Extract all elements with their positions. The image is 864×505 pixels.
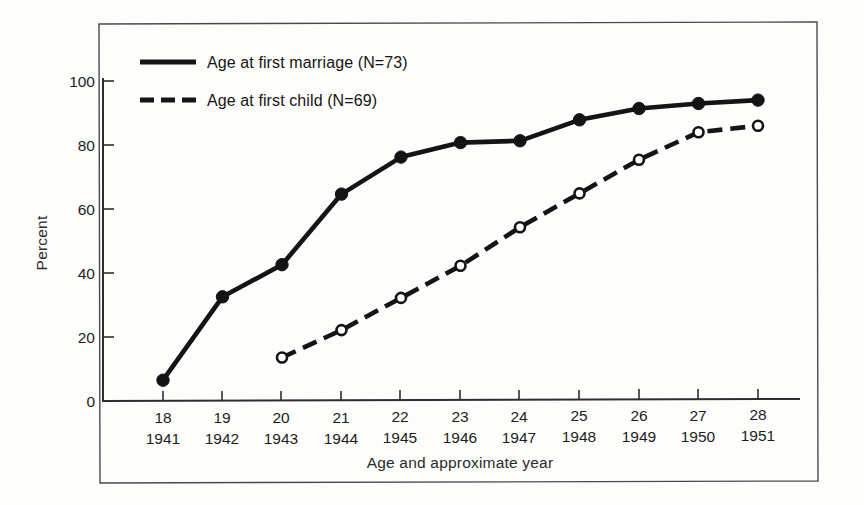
legend-entry-child: Age at first child (N=69) bbox=[140, 92, 377, 109]
data-point bbox=[454, 136, 466, 148]
x-tick-labels-year: 1941 1942 1943 1944 1945 1946 1947 1948 … bbox=[146, 427, 775, 447]
data-point bbox=[753, 121, 763, 131]
x-tick-label-year-1951: 1951 bbox=[741, 427, 775, 444]
x-tick-label-age-27: 27 bbox=[689, 407, 706, 424]
x-tick-label-age-19: 19 bbox=[213, 409, 230, 426]
legend-label-child: Age at first child (N=69) bbox=[207, 92, 377, 109]
series-age-at-first-child bbox=[277, 121, 763, 363]
x-axis-title: Age and approximate year bbox=[367, 454, 554, 471]
x-tick-label-age-18: 18 bbox=[154, 409, 171, 426]
x-tick-label-age-28: 28 bbox=[749, 406, 766, 423]
x-tick-label-year-1941: 1941 bbox=[146, 430, 180, 447]
x-tick-label-year-1945: 1945 bbox=[383, 429, 417, 446]
line-chart-canvas: 100 80 60 40 20 0 Percent 18 19 20 21 22… bbox=[0, 0, 864, 505]
x-tick-label-age-21: 21 bbox=[332, 409, 349, 426]
series-age-at-first-marriage bbox=[157, 94, 764, 387]
data-point bbox=[395, 151, 407, 163]
data-point bbox=[752, 94, 764, 106]
x-tick-label-age-25: 25 bbox=[570, 407, 587, 424]
x-tick-labels-age: 18 19 20 21 22 23 24 25 26 27 28 bbox=[154, 406, 766, 426]
x-tick-label-age-26: 26 bbox=[630, 407, 647, 424]
y-tick-label-60: 60 bbox=[78, 201, 96, 218]
y-axis-ticks bbox=[103, 81, 114, 337]
chart-figure: 100 80 60 40 20 0 Percent 18 19 20 21 22… bbox=[0, 0, 864, 505]
series-markers-marriage bbox=[157, 94, 764, 387]
y-tick-label-20: 20 bbox=[78, 329, 96, 346]
x-tick-label-year-1942: 1942 bbox=[205, 430, 239, 447]
data-point bbox=[634, 155, 644, 165]
data-point bbox=[216, 291, 228, 303]
data-point bbox=[694, 127, 704, 137]
data-point bbox=[335, 188, 347, 200]
data-point bbox=[277, 353, 287, 363]
data-point bbox=[157, 374, 169, 386]
data-point bbox=[396, 293, 406, 303]
plot-axes bbox=[103, 78, 800, 402]
data-point bbox=[456, 261, 466, 271]
data-point bbox=[575, 188, 585, 198]
x-tick-label-year-1943: 1943 bbox=[264, 430, 298, 447]
y-axis-title: Percent bbox=[33, 215, 50, 270]
data-point bbox=[514, 135, 526, 147]
x-tick-label-age-24: 24 bbox=[510, 408, 528, 425]
y-tick-labels: 100 80 60 40 20 0 bbox=[69, 73, 95, 410]
x-tick-label-year-1948: 1948 bbox=[562, 428, 596, 445]
x-tick-label-age-23: 23 bbox=[451, 408, 468, 425]
x-tick-label-year-1950: 1950 bbox=[681, 428, 716, 445]
x-tick-label-age-20: 20 bbox=[272, 409, 290, 426]
x-tick-label-year-1946: 1946 bbox=[443, 429, 477, 446]
x-tick-label-year-1949: 1949 bbox=[622, 428, 656, 445]
x-axis-line bbox=[103, 399, 800, 401]
data-point bbox=[573, 114, 585, 126]
x-tick-label-age-22: 22 bbox=[391, 408, 408, 425]
data-point bbox=[515, 222, 525, 232]
y-tick-label-100: 100 bbox=[69, 73, 95, 90]
y-tick-label-40: 40 bbox=[78, 265, 96, 282]
data-point bbox=[276, 259, 288, 271]
y-tick-label-80: 80 bbox=[78, 137, 96, 154]
series-line-child bbox=[282, 126, 758, 358]
data-point bbox=[692, 97, 704, 109]
data-point bbox=[337, 325, 347, 335]
legend-entry-marriage: Age at first marriage (N=73) bbox=[140, 54, 408, 71]
y-tick-label-0: 0 bbox=[86, 393, 95, 410]
data-point bbox=[633, 102, 645, 114]
chart-legend: Age at first marriage (N=73) Age at firs… bbox=[140, 54, 408, 109]
x-tick-label-year-1944: 1944 bbox=[324, 430, 359, 447]
x-tick-label-year-1947: 1947 bbox=[502, 429, 536, 446]
legend-label-marriage: Age at first marriage (N=73) bbox=[207, 54, 408, 71]
